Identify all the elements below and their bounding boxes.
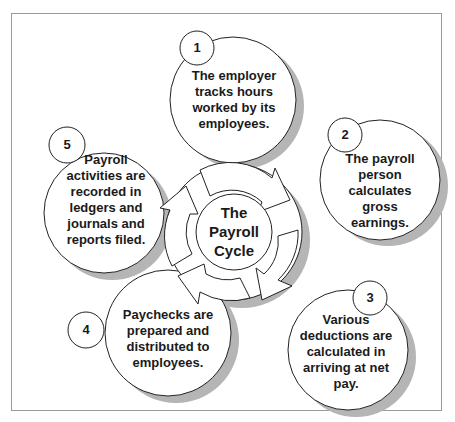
text-line: gross [330,199,430,215]
text-line: employees. [108,355,228,371]
text-line: person [330,167,430,183]
text-line: distributed to [108,339,228,355]
text-line: employees. [178,116,290,132]
step-3-number: 3 [360,290,380,305]
step-2-text: The payroll person calculates gross earn… [330,151,430,231]
text-line: prepared and [108,323,228,339]
text-line: Paychecks are [108,307,228,323]
text-line: tracks hours [178,84,290,100]
text-line: calculates [330,183,430,199]
text-line: deductions are [290,328,402,344]
center-label-line: Cycle [194,241,274,260]
step-1-text: The employer tracks hours worked by its … [178,68,290,132]
text-line: Various [290,312,402,328]
step-4-number: 4 [76,322,96,337]
text-line: arriving at net [290,360,402,376]
text-line: earnings. [330,215,430,231]
center-label-line: Payroll [194,222,274,241]
text-line: reports filed. [50,232,162,248]
text-line: The payroll [330,151,430,167]
step-5-number: 5 [57,137,77,152]
center-label-line: The [194,203,274,222]
cycle-center-label: The Payroll Cycle [194,203,274,260]
text-line: activities are [50,168,162,184]
step-1-number: 1 [187,40,207,55]
text-line: journals and [50,216,162,232]
text-line: worked by its [178,100,290,116]
step-3-text: Various deductions are calculated in arr… [290,312,402,392]
text-line: Payroll [50,152,162,168]
step-2-number: 2 [335,127,355,142]
step-5-text: Payroll activities are recorded in ledge… [50,152,162,248]
text-line: ledgers and [50,200,162,216]
text-line: The employer [178,68,290,84]
text-line: calculated in [290,344,402,360]
step-4-text: Paychecks are prepared and distributed t… [108,307,228,371]
text-line: recorded in [50,184,162,200]
text-line: pay. [290,376,402,392]
